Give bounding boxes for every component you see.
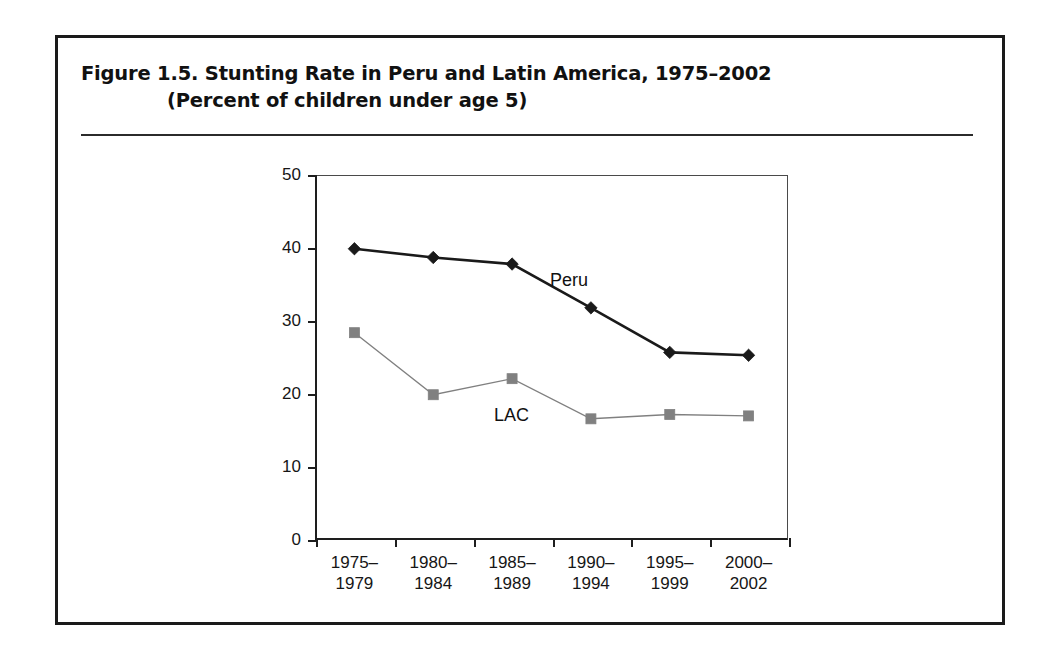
data-point-marker-peru [585,302,597,314]
series-line-peru [354,249,748,356]
series-annotation-peru: Peru [550,270,588,291]
y-axis-tick-label: 10 [241,457,301,477]
data-point-marker-lac [507,374,517,384]
x-axis-tick-label-line: 2002 [704,573,794,594]
x-axis-tick-label: 1980–1984 [388,552,478,594]
y-axis-tick-label: 0 [241,530,301,550]
data-point-marker-lac [665,409,675,419]
y-axis-tick-label: 20 [241,384,301,404]
data-point-marker-lac [349,328,359,338]
data-point-marker-lac [744,411,754,421]
x-axis-tick-label-line: 1985– [467,552,557,573]
series-line-lac [354,333,748,419]
y-axis-tick-label: 50 [241,165,301,185]
x-axis-tick-label: 1995–1999 [625,552,715,594]
x-axis-tick-label-line: 1989 [467,573,557,594]
data-point-marker-lac [428,390,438,400]
figure-outer-border: Figure 1.5. Stunting Rate in Peru and La… [55,35,1005,625]
series-annotation-lac: LAC [494,405,529,426]
x-axis-tick-label-line: 1994 [546,573,636,594]
x-axis-tick-label: 2000–2002 [704,552,794,594]
data-point-marker-peru [742,349,754,361]
y-axis-tick-label: 40 [241,238,301,258]
x-axis-tick-label-line: 1979 [309,573,399,594]
x-axis-tick-label-line: 1984 [388,573,478,594]
x-axis-tick-label-line: 1999 [625,573,715,594]
x-axis-tick-label: 1990–1994 [546,552,636,594]
y-axis-tick-label: 30 [241,311,301,331]
x-axis-tick [789,538,791,547]
series-svg [315,175,788,540]
chart-plot-area: 010203040501975–19791980–19841985–198919… [58,38,1002,622]
data-point-marker-lac [586,414,596,424]
data-point-marker-peru [664,346,676,358]
data-point-marker-peru [427,251,439,263]
x-axis-tick-label: 1975–1979 [309,552,399,594]
x-axis-tick-label: 1985–1989 [467,552,557,594]
data-point-marker-peru [348,243,360,255]
x-axis-tick-label-line: 1990– [546,552,636,573]
data-point-marker-peru [506,258,518,270]
x-axis-tick-label-line: 1995– [625,552,715,573]
x-axis-tick-label-line: 1975– [309,552,399,573]
x-axis-tick-label-line: 1980– [388,552,478,573]
x-axis-tick-label-line: 2000– [704,552,794,573]
